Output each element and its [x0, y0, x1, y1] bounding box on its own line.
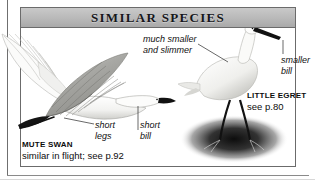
similar-species-figure: SIMILAR SPECIES much smaller and slimmer…: [0, 0, 315, 182]
species-name-mute-swan: MUTE SWAN: [22, 140, 124, 150]
annotation-short-legs: short legs: [95, 120, 115, 141]
annotation-short-bill: short bill: [140, 120, 160, 141]
page-left-rule: [7, 0, 8, 176]
page-bottom-rule-secondary: [0, 179, 315, 180]
species-label-mute-swan: MUTE SWAN similar in flight; see p.92: [22, 140, 124, 161]
species-name-little-egret: LITTLE EGRET: [247, 91, 306, 101]
page-bottom-rule: [7, 175, 309, 176]
species-reference-mute-swan: similar in flight; see p.92: [22, 150, 124, 161]
species-reference-little-egret: see p.80: [247, 101, 306, 112]
annotation-much-smaller: much smaller and slimmer: [143, 34, 197, 55]
panel-header: SIMILAR SPECIES: [20, 7, 296, 28]
annotation-smaller-bill: smaller bill: [281, 55, 310, 76]
panel-title: SIMILAR SPECIES: [91, 10, 225, 26]
species-label-little-egret: LITTLE EGRET see p.80: [247, 91, 306, 112]
